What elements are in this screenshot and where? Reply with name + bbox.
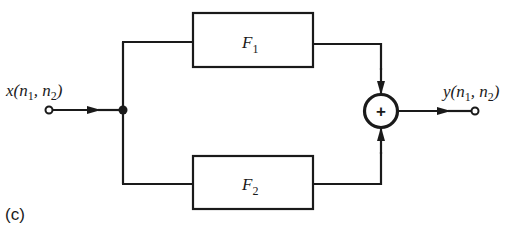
wire-f2-to-summer [313, 152, 381, 184]
output-signal-label: y(n1, n2) [441, 82, 500, 104]
summing-junction: + [365, 95, 398, 128]
input-signal-label: x(n1, n2) [5, 81, 63, 103]
block-diagram: x(n1, n2) F1 F2 + y(n1, [0, 0, 528, 226]
block-f1: F1 [193, 13, 313, 67]
wire-f1-to-summer [313, 44, 381, 70]
input-terminal-icon [46, 107, 53, 114]
panel-label: (c) [5, 205, 25, 224]
block-f2: F2 [193, 156, 313, 209]
output-terminal-icon [472, 108, 479, 115]
plus-icon: + [376, 102, 386, 121]
